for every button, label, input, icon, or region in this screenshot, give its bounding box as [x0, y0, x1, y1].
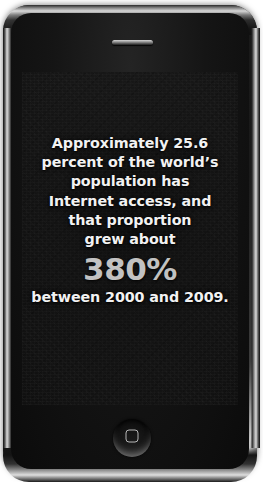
message-line-5: that proportion	[26, 211, 234, 230]
home-button[interactable]	[113, 419, 151, 457]
message-line-2: percent of the world’s	[26, 153, 234, 172]
message-line-4: Internet access, and	[26, 192, 234, 211]
message-line-6: grew about	[26, 230, 234, 249]
growth-percentage-value: 380%	[26, 251, 234, 287]
statistic-message: Approximately 25.6 percent of the world’…	[22, 134, 238, 307]
screenshot-stage: Approximately 25.6 percent of the world’…	[0, 0, 263, 482]
message-line-3: population has	[26, 172, 234, 191]
message-closing-line: between 2000 and 2009.	[26, 288, 234, 307]
message-line-1: Approximately 25.6	[26, 134, 234, 153]
earpiece-speaker-icon	[112, 40, 153, 45]
rounded-square-icon	[126, 430, 139, 443]
phone-screen[interactable]: Approximately 25.6 percent of the world’…	[22, 72, 238, 405]
